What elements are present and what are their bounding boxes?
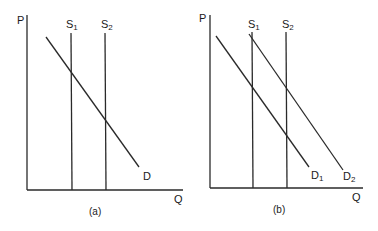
panel-a: P Q S1 S2 D (a)	[17, 14, 183, 217]
panel-a-supply-curve-s2	[105, 33, 106, 190]
supply-demand-diagram: P Q S1 S2 D (a) P Q S1 S2 D1 D2 (b)	[0, 0, 378, 231]
panel-b-y-axis-label: P	[199, 12, 206, 24]
panel-b-supply-curve-s2	[286, 32, 287, 188]
panel-b-supply-curve-s1	[252, 32, 253, 188]
panel-a-s2-label: S2	[101, 18, 113, 32]
panel-a-caption: (a)	[89, 206, 101, 217]
panel-a-d-label: D	[143, 170, 151, 182]
panel-a-s1-label: S1	[66, 18, 78, 32]
panel-b-d2-label: D2	[343, 170, 356, 184]
panel-a-x-axis-label: Q	[174, 193, 183, 205]
panel-a-y-axis-label: P	[17, 14, 24, 26]
panel-b-x-axis-label: Q	[352, 191, 361, 203]
panel-b-s2-label: S2	[282, 18, 294, 32]
panel-b: P Q S1 S2 D1 D2 (b)	[199, 12, 363, 215]
panel-a-demand-curve-d	[46, 37, 139, 167]
panel-b-s1-label: S1	[248, 18, 260, 32]
panel-b-caption: (b)	[273, 204, 285, 215]
panel-a-supply-curve-s1	[71, 33, 72, 190]
panel-b-d1-label: D1	[311, 169, 324, 183]
